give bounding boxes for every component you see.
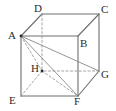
- vertex-label-e: E: [9, 95, 16, 106]
- diagonal-AF: [21, 36, 78, 96]
- diagonal-HF: [42, 71, 78, 96]
- vertex-label-g: G: [101, 69, 109, 80]
- vertex-label-a: A: [8, 30, 16, 41]
- edge-DA: [21, 14, 42, 36]
- edge-BC: [78, 14, 99, 36]
- vertex-label-b: B: [80, 38, 87, 49]
- vertex-label-f: F: [74, 96, 80, 107]
- vertex-dot-h: [41, 70, 44, 73]
- edge-HE: [21, 71, 42, 96]
- vertex-dot-a: [20, 35, 23, 38]
- cube-figure: ABCDEFGH: [0, 0, 116, 111]
- cube-svg: [0, 0, 116, 111]
- vertex-label-h: H: [31, 63, 39, 74]
- edge-FG: [78, 71, 99, 96]
- vertex-label-c: C: [101, 4, 108, 15]
- vertex-label-d: D: [34, 3, 42, 14]
